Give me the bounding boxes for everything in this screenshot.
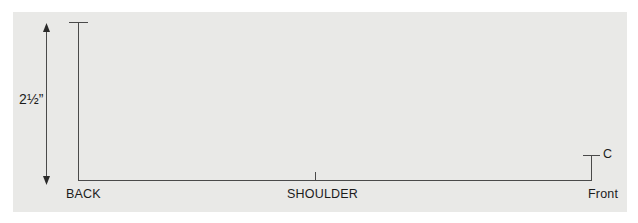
segment-c-label: C — [603, 148, 612, 161]
diagram-figure: 2½” BACK SHOULDER Front C — [0, 0, 638, 223]
front-label: Front — [588, 188, 618, 201]
back-label: BACK — [66, 188, 101, 201]
dimension-arrowhead-up — [43, 23, 50, 32]
shoulder-label: SHOULDER — [287, 188, 358, 201]
height-dimension-label: 2½” — [19, 92, 43, 106]
dimension-arrowhead-down — [43, 176, 50, 185]
height-dimension-value: 2½” — [19, 91, 43, 107]
